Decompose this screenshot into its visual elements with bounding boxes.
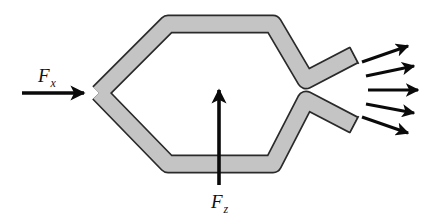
jet-arrow-icon [362, 46, 408, 62]
fx-label: Fx [38, 66, 56, 85]
jet-arrows [362, 46, 418, 133]
jet-arrow-icon [366, 104, 414, 113]
fz-label-main: F [211, 191, 223, 212]
jet-arrow-icon [366, 66, 414, 76]
pipe-fill-upper [99, 24, 353, 93]
fx-label-main: F [38, 65, 50, 86]
fx-label-sub: x [51, 76, 56, 90]
diagram-canvas [0, 0, 436, 222]
pipe-body [99, 24, 359, 164]
fz-label-sub: z [224, 202, 229, 216]
jet-arrow-icon [362, 117, 408, 133]
fz-label: Fz [211, 192, 228, 211]
pipe-fill-lower [99, 93, 353, 164]
